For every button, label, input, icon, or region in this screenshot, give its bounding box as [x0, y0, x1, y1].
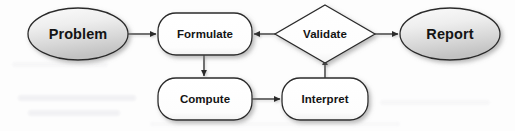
node-label-formulate: Formulate: [158, 29, 252, 41]
flowchart-graphic: [0, 0, 515, 131]
node-label-validate: Validate: [275, 29, 375, 41]
diagram-canvas: Problem Formulate Validate Report Comput…: [0, 0, 515, 131]
node-label-problem: Problem: [28, 27, 128, 42]
node-label-interpret: Interpret: [282, 94, 368, 106]
node-label-compute: Compute: [158, 94, 252, 106]
node-label-report: Report: [400, 27, 500, 42]
